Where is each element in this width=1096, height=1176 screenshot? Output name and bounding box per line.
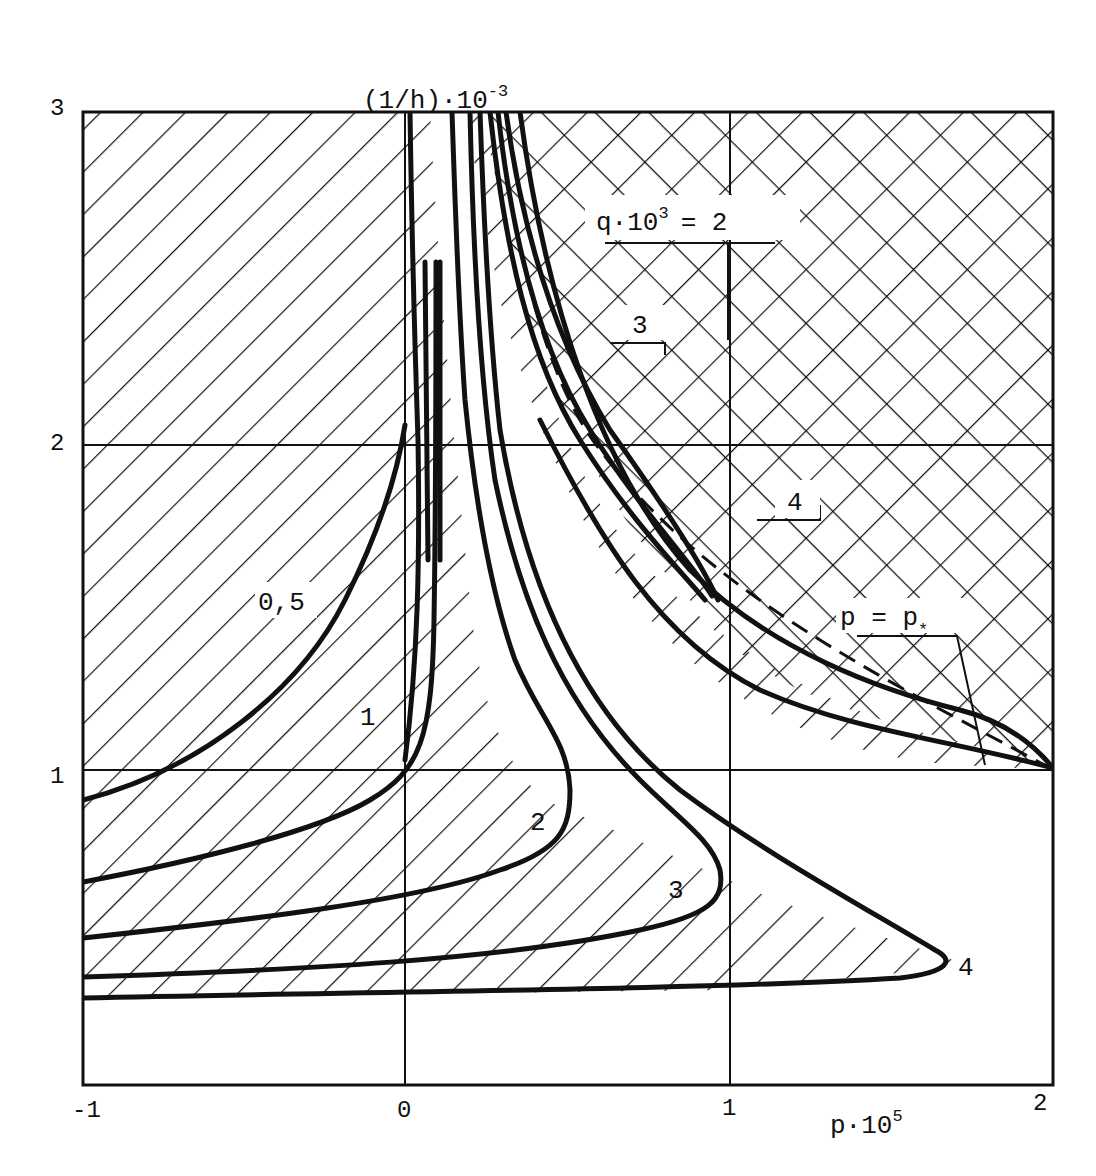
curve-label-2: 2: [530, 808, 546, 838]
curve-label-1: 1: [360, 703, 376, 733]
x-tick-1: 1: [722, 1095, 736, 1122]
curve-label-0.5: 0,5: [258, 588, 305, 618]
curve-label-4: 4: [958, 953, 974, 983]
y-tick-2: 2: [50, 430, 64, 457]
x-tick--1: -1: [72, 1097, 101, 1124]
chart-figure: (1/h)·10-3 p·105 -1 0 1 2 1 2 3 q·103= 2…: [0, 0, 1096, 1176]
q-label-3-upper: 3: [632, 311, 648, 341]
q-label-4-upper: 4: [787, 488, 803, 518]
x-tick-0: 0: [397, 1097, 411, 1124]
curve-q-1-stub: [425, 262, 428, 560]
y-tick-1: 1: [50, 763, 64, 790]
x-tick-2: 2: [1033, 1090, 1047, 1117]
x-axis-title: p·105: [830, 1107, 903, 1141]
unhatched-region-bottom: [83, 990, 1053, 1085]
y-tick-3: 3: [50, 95, 64, 122]
curve-label-3: 3: [668, 876, 684, 906]
y-axis-title: (1/h)·10-3: [363, 82, 508, 116]
